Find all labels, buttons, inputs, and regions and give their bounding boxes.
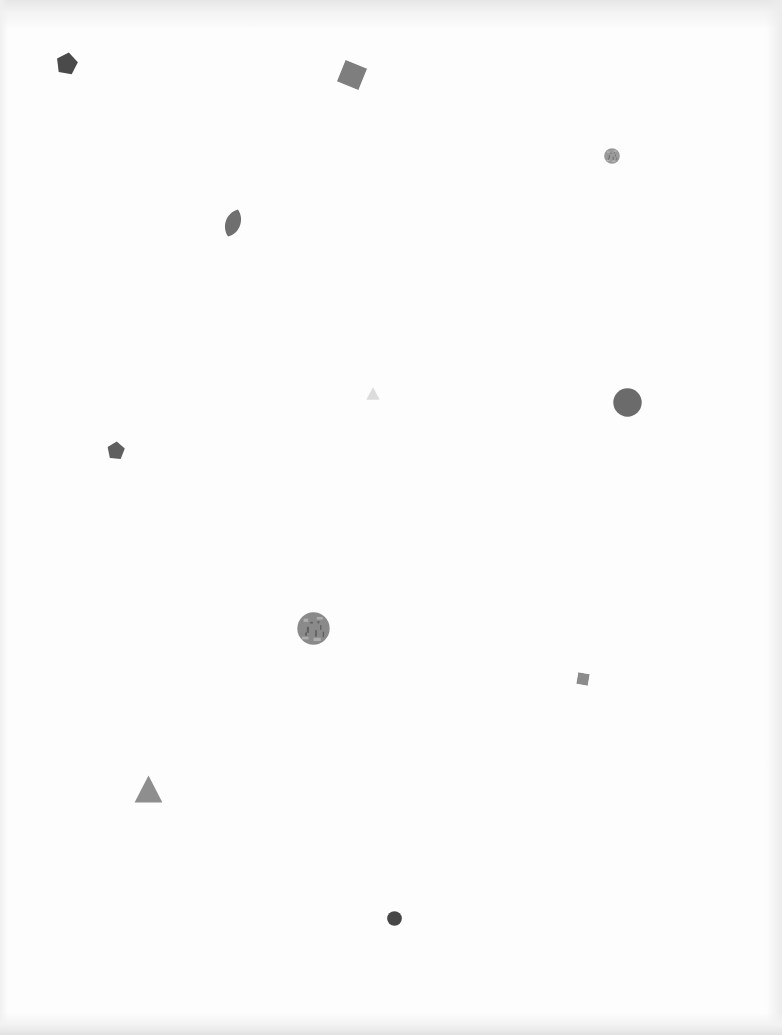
square-shape bbox=[336, 59, 367, 90]
circle-shape bbox=[297, 612, 330, 645]
scan-edge-left bbox=[0, 0, 8, 1035]
scanned-page bbox=[0, 0, 782, 1035]
leaf-shape bbox=[218, 205, 249, 241]
triangle-shape bbox=[366, 387, 380, 400]
triangle-shape bbox=[134, 775, 163, 803]
pentagon-shape bbox=[106, 440, 126, 460]
square-shape bbox=[576, 672, 590, 686]
pentagon-shape bbox=[54, 50, 79, 75]
scan-edge-bottom bbox=[0, 1013, 782, 1035]
circle-shape bbox=[613, 388, 642, 417]
circle-shape bbox=[387, 911, 402, 926]
circle-shape bbox=[604, 148, 620, 164]
scan-edge-right bbox=[766, 0, 782, 1035]
scan-edge-top bbox=[0, 0, 782, 30]
